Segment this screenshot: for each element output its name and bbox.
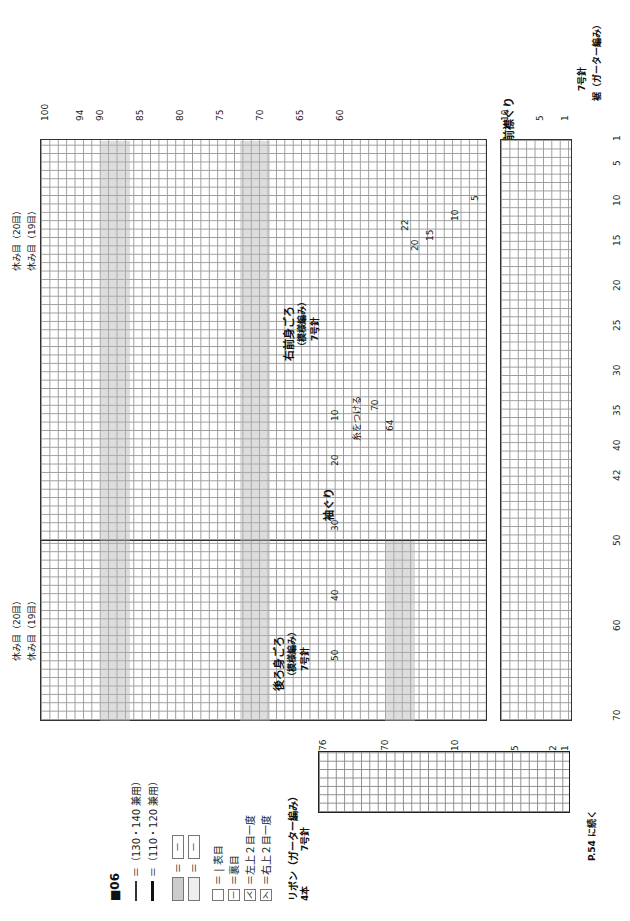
thin-line-icon xyxy=(135,881,137,901)
right-front-subtitle: （模様編み） xyxy=(295,297,308,351)
ribbon-row-10: 10 xyxy=(450,740,460,751)
back-body-title: 後ろ身ごろ xyxy=(270,636,286,691)
col-20: 20 xyxy=(612,280,622,291)
neck-step-22: 22 xyxy=(400,220,410,231)
col-50: 50 xyxy=(612,535,622,546)
left-decrease-icon: ⋌ xyxy=(244,889,256,901)
row-65: 65 xyxy=(295,110,305,121)
continue-note: P.54 に続く xyxy=(585,810,598,861)
neck-step-20: 20 xyxy=(410,240,420,251)
armhole-row-64: 64 xyxy=(385,420,395,431)
row-94: 94 xyxy=(75,110,85,121)
legend-purl: — ＝裏目 xyxy=(226,855,241,901)
ribbon-row-70: 70 xyxy=(380,740,390,751)
armhole-row-30: 30 xyxy=(330,520,340,531)
back-body-needle: 7号針 xyxy=(298,647,311,671)
row-90: 90 xyxy=(95,110,105,121)
shade-band xyxy=(385,541,415,721)
legend-text: ＝ xyxy=(186,863,201,873)
hem-needle: 7号針 xyxy=(575,67,588,91)
col-15: 15 xyxy=(612,235,622,246)
legend-text: ＝ xyxy=(170,863,185,873)
neck-step-5: 5 xyxy=(470,195,480,201)
row-80: 80 xyxy=(175,110,185,121)
armhole-row-40: 40 xyxy=(330,590,340,601)
hem-title: 裾（ガーター編み） xyxy=(590,20,603,101)
right-front-title: 右前身ごろ xyxy=(280,306,296,361)
shaded-block-icon xyxy=(172,877,184,901)
legend-text: ＝裏目 xyxy=(226,855,241,885)
pattern-id: ■06 xyxy=(108,873,122,901)
legend-text: ＝（110・120 兼用） xyxy=(145,776,160,877)
armhole-label: 袖ぐり xyxy=(320,488,336,521)
armhole-row-70: 70 xyxy=(370,400,380,411)
ribbon-row-2: 2 xyxy=(548,745,558,751)
col-42: 42 xyxy=(612,470,622,481)
legend-text: ＝左上２目一度 xyxy=(242,815,257,885)
col-30: 30 xyxy=(612,365,622,376)
legend-ssk-right: ⋋ ＝右上２目一度 xyxy=(258,815,273,901)
col-10: 10 xyxy=(612,195,622,206)
shade-band xyxy=(240,141,270,541)
purl-stitch-icon: — xyxy=(228,889,240,901)
shade-band xyxy=(240,541,270,721)
row-100: 100 xyxy=(40,104,50,121)
armhole-row-20: 20 xyxy=(330,455,340,466)
legend-size-110-120: ＝（110・120 兼用） xyxy=(145,776,160,901)
shade-band xyxy=(100,541,130,721)
col-40: 40 xyxy=(612,440,622,451)
ribbon-count: 4本 xyxy=(298,886,311,901)
armhole-row-50: 50 xyxy=(330,650,340,661)
neck-step-15: 15 xyxy=(425,230,435,241)
legend-k2tog-left: ⋌ ＝左上２目一度 xyxy=(242,815,257,901)
col-70: 70 xyxy=(612,710,622,721)
row-75: 75 xyxy=(215,110,225,121)
rest-20-front: 休み目（20目） xyxy=(10,206,23,271)
right-decrease-icon: ⋋ xyxy=(260,889,272,901)
thick-line-icon xyxy=(151,881,154,901)
ribbon-chart xyxy=(318,751,570,813)
purl-block-icon: — xyxy=(172,835,184,859)
rest-19-back: 休み目（19目） xyxy=(25,596,38,661)
attach-yarn-label: 糸をつける xyxy=(350,396,363,441)
legend-shade-gray: ＝ — xyxy=(170,835,185,901)
back-body-subtitle: （模様編み） xyxy=(285,627,298,681)
row-60: 60 xyxy=(335,110,345,121)
legend-text: ＝（130・140 兼用） xyxy=(128,776,143,877)
ribbon-row-5: 5 xyxy=(510,745,520,751)
row-5: 5 xyxy=(535,115,545,121)
col-35: 35 xyxy=(612,405,622,416)
rest-19-front: 休み目（19目） xyxy=(25,206,38,271)
row-70: 70 xyxy=(255,110,265,121)
knit-stitch-icon xyxy=(212,889,224,901)
legend-text: ＝右上２目一度 xyxy=(258,815,273,885)
legend-shade-light: ＝ — xyxy=(186,835,201,901)
right-front-needle: 7号針 xyxy=(308,317,321,341)
col-60: 60 xyxy=(612,620,622,631)
hem-grid xyxy=(500,139,572,721)
armhole-row-10: 10 xyxy=(330,410,340,421)
legend-size-130-140: ＝（130・140 兼用） xyxy=(128,776,143,901)
rest-20-back: 休み目（20目） xyxy=(10,596,23,661)
purl-block-icon: — xyxy=(188,835,200,859)
col-5: 5 xyxy=(612,160,622,166)
row-1: 1 xyxy=(560,115,570,121)
row-85: 85 xyxy=(135,110,145,121)
shade-band xyxy=(100,141,130,541)
col-1: 1 xyxy=(612,135,622,141)
legend-text: ＝ | 表目 xyxy=(210,845,225,885)
ribbon-row-76: 76 xyxy=(318,740,328,751)
knitting-chart-canvas: ■06 ＝（130・140 兼用） ＝（110・120 兼用） ＝ — ＝ — … xyxy=(0,0,630,921)
ribbon-row-1: 1 xyxy=(560,745,570,751)
legend-knit: ＝ | 表目 xyxy=(210,845,225,901)
light-block-icon xyxy=(188,877,200,901)
row-10: 10 xyxy=(500,110,510,121)
neck-step-10: 10 xyxy=(450,210,460,221)
ribbon-needle: 7号針 xyxy=(298,827,311,851)
col-25: 25 xyxy=(612,320,622,331)
